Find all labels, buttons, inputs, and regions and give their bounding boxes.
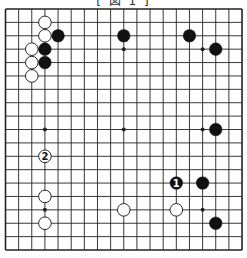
star-point (43, 208, 47, 212)
star-point (122, 128, 126, 132)
white-stone (25, 43, 38, 56)
white-stone: 2 (39, 150, 52, 163)
black-stone: 1 (170, 177, 183, 190)
star-point (122, 47, 126, 51)
black-stone (39, 56, 52, 69)
white-stone (39, 190, 52, 203)
star-point (201, 47, 205, 51)
black-stone (52, 29, 65, 42)
black-stone (39, 43, 52, 56)
star-point (201, 208, 205, 212)
white-stone (39, 16, 52, 29)
black-stone (196, 177, 209, 190)
white-stone (117, 204, 130, 217)
white-stone (25, 70, 38, 83)
star-point (201, 128, 205, 132)
move-number-label: 1 (173, 178, 180, 189)
black-stone (209, 217, 222, 230)
move-number-label: 2 (41, 151, 48, 162)
black-stone (183, 29, 196, 42)
white-stone (25, 56, 38, 69)
go-board: 21 (0, 0, 247, 258)
black-stone (117, 29, 130, 42)
white-stone (170, 204, 183, 217)
black-stone (209, 43, 222, 56)
white-stone (39, 29, 52, 42)
white-stone (39, 217, 52, 230)
black-stone (209, 123, 222, 136)
star-point (43, 128, 47, 132)
